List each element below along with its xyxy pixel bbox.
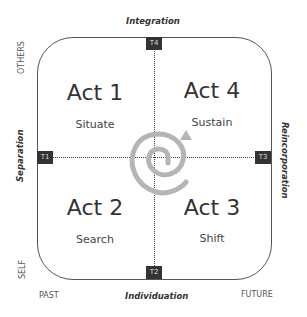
axis-label-integration: Integration <box>126 16 180 26</box>
quadrant-act-1-label: Situate <box>45 118 145 131</box>
marker-t2: T2 <box>146 266 162 279</box>
label-others: OTHERS <box>17 38 26 78</box>
quadrant-act-3-label: Shift <box>162 232 262 245</box>
quadrant-act-3-title: Act 3 <box>162 195 262 220</box>
label-self: SELF <box>18 250 27 290</box>
axis-label-individuation: Individuation <box>125 291 188 301</box>
quadrant-act-1-title: Act 1 <box>45 80 145 105</box>
label-past: PAST <box>39 291 59 300</box>
marker-t1: T1 <box>37 151 53 164</box>
label-future: FUTURE <box>241 290 273 299</box>
axis-label-reincorporation: Reincorporation <box>280 122 290 192</box>
axis-label-separation: Separation <box>15 132 25 182</box>
quadrant-act-2-label: Search <box>45 233 145 246</box>
marker-t3: T3 <box>255 151 271 164</box>
quadrant-act-4-label: Sustain <box>162 116 262 129</box>
quadrant-act-4-title: Act 4 <box>162 78 262 103</box>
marker-t4: T4 <box>146 37 162 50</box>
quadrant-act-2-title: Act 2 <box>45 195 145 220</box>
